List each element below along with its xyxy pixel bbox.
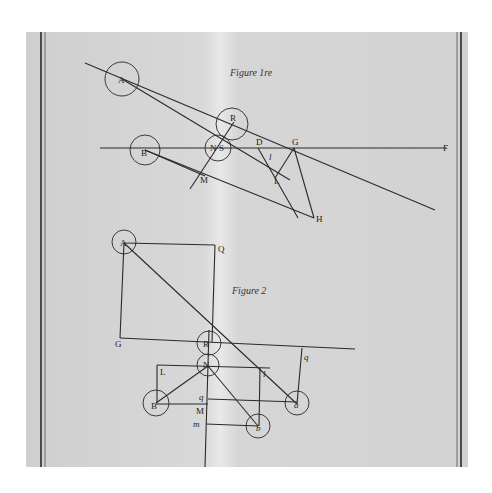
line-A-a: [124, 243, 297, 404]
line-N-b: [208, 366, 258, 426]
figure-1: Figure 1re A R N S B D G F l L M H: [85, 62, 448, 224]
label-B: B: [141, 148, 147, 158]
label-l: l: [269, 152, 272, 162]
label-H: H: [316, 214, 323, 224]
label-M: M: [200, 175, 208, 185]
label-q-mid: q: [199, 392, 204, 402]
line-G-far: [120, 338, 355, 349]
label-L2: L: [160, 367, 166, 377]
line-m-b: [206, 424, 258, 426]
label-M2: M: [196, 406, 204, 416]
label-q-right: q: [304, 352, 309, 362]
label-A2: A: [120, 238, 127, 248]
figure-2-title: Figure 2: [231, 285, 266, 296]
label-F: F: [443, 143, 448, 153]
label-A: A: [118, 75, 125, 85]
line-L-l: [157, 365, 270, 368]
label-G: G: [292, 137, 299, 147]
figure-1-title: Figure 1re: [229, 67, 273, 78]
line-l-b: [259, 368, 260, 426]
line-q-a: [297, 348, 302, 404]
label-R: R: [230, 113, 236, 123]
line-G-L: [275, 148, 294, 178]
line-A-G: [120, 243, 124, 338]
label-b2: b: [256, 423, 261, 433]
line-q-a-horiz: [208, 399, 297, 402]
line-B-H: [145, 150, 314, 218]
figure-2: Figure 2 A Q G R N L: [112, 230, 355, 467]
label-Q2: Q: [218, 244, 225, 254]
page-border: [41, 32, 461, 467]
line-B-M: [145, 150, 205, 176]
geometry-diagram: Figure 1re A R N S B D G F l L M H Figur…: [0, 0, 492, 493]
label-a2: a: [294, 400, 299, 410]
label-R2: R: [203, 339, 209, 349]
label-G2: G: [115, 339, 122, 349]
label-L: L: [274, 176, 280, 186]
line-A-Q: [124, 243, 215, 245]
label-S: S: [219, 143, 224, 153]
line-R-M: [190, 122, 234, 189]
label-m2: m: [193, 419, 200, 429]
label-D: D: [256, 137, 263, 147]
label-N: N: [210, 143, 217, 153]
label-N2: N: [203, 360, 210, 370]
label-B2: B: [151, 401, 157, 411]
